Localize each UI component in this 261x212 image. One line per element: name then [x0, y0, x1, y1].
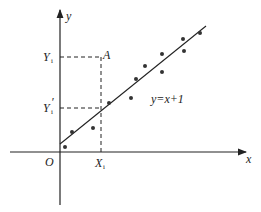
y-i-prime-mark: ′: [51, 95, 54, 109]
line-equation-label: y=x+1: [150, 92, 184, 106]
regression-line: [60, 26, 206, 144]
guide-lines: [60, 57, 101, 152]
x-axis-label: x: [245, 152, 252, 166]
point-a-label: A: [102, 48, 111, 62]
x-i-subscript: i: [103, 163, 105, 171]
x-i-label: X: [94, 156, 103, 170]
y-i-subscript: i: [51, 57, 53, 65]
y-i-prime-subscript: i: [51, 108, 53, 116]
y-i-prime-label: Y: [43, 101, 51, 115]
y-axis-label: y: [65, 9, 72, 23]
y-i-label: Y: [43, 50, 51, 64]
data-points: [63, 31, 202, 149]
regression-diagram: y x O A Y i Y i ′ X i y=x+1: [0, 0, 261, 212]
origin-label: O: [45, 155, 54, 169]
